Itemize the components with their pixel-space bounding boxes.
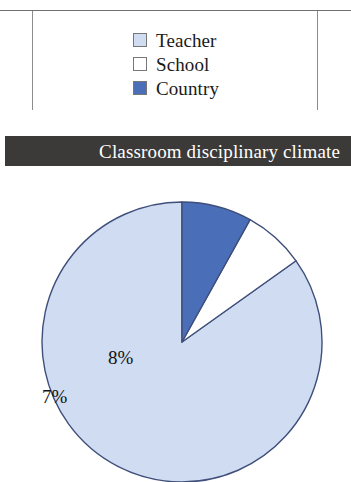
- square-swatch-icon-school: [133, 57, 147, 71]
- chart-title-bar: Classroom disciplinary climate: [5, 136, 351, 166]
- pie-chart-svg: [0, 166, 351, 482]
- page-title: Classroom disciplinary climate: [99, 142, 340, 161]
- pie-chart: 8% 7% 84%: [0, 166, 351, 482]
- pie-slice-group: [42, 202, 322, 482]
- table-vertical-rule-right: [317, 11, 318, 110]
- figure-container: Teacher School Country Classroom discipl…: [0, 0, 351, 482]
- pie-slice-value-school: 7%: [42, 387, 67, 406]
- table-vertical-rule-left: [32, 11, 33, 110]
- legend-item-label-teacher: Teacher: [156, 31, 217, 50]
- legend-item-school: School: [133, 52, 283, 76]
- legend-item-label-school: School: [156, 55, 209, 74]
- legend-item-label-country: Country: [156, 79, 219, 98]
- pie-slice-value-country: 8%: [108, 348, 133, 367]
- legend-item-teacher: Teacher: [133, 28, 283, 52]
- square-swatch-icon-country: [133, 81, 147, 95]
- table-horizontal-rule: [0, 10, 351, 11]
- legend-item-country: Country: [133, 76, 283, 100]
- square-swatch-icon-teacher: [133, 33, 147, 47]
- chart-legend: Teacher School Country: [133, 28, 283, 100]
